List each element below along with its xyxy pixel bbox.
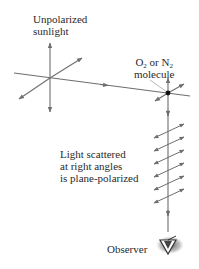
label-line: sunlight <box>33 25 87 37</box>
label-line: Light scattered <box>60 148 139 160</box>
label-line: is plane-polarized <box>60 172 139 184</box>
label-line: molecule <box>134 68 174 80</box>
molecule-dot <box>166 91 171 96</box>
label-line: at right angles <box>60 160 139 172</box>
molecule-leader-line <box>150 80 167 92</box>
observer-label: Observer <box>107 243 147 255</box>
scattered-light-label: Light scattered at right angles is plane… <box>60 148 139 184</box>
label-line: Unpolarized <box>33 13 87 25</box>
unpolarized-sunlight-label: Unpolarized sunlight <box>33 13 87 37</box>
molecule-label: O2 or N2 molecule <box>134 56 174 80</box>
polarized-vectors <box>154 124 184 203</box>
molecule-vectors <box>155 78 184 101</box>
eye-icon <box>156 236 184 254</box>
scattering-diagram <box>0 0 199 269</box>
molecule-formula: O2 or N2 <box>134 56 174 68</box>
